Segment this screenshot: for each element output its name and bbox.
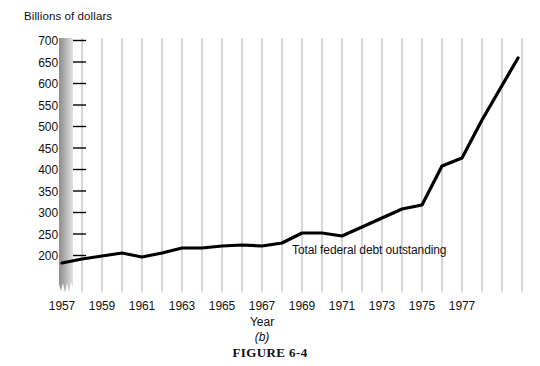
y-tick-label: 200: [24, 249, 58, 263]
figure-container: Billions of dollars: [0, 0, 540, 366]
x-axis-title: Year: [232, 315, 292, 329]
y-tick-label: 450: [24, 142, 58, 156]
y-tick-label: 600: [24, 77, 58, 91]
x-tick-label: 1973: [362, 299, 402, 313]
y-tick-label: 250: [24, 228, 58, 242]
y-axis-break-band: [59, 38, 73, 293]
y-tick-label: 650: [24, 56, 58, 70]
x-tick-label: 1971: [322, 299, 362, 313]
series-line-total-federal-debt: [62, 58, 518, 263]
x-tick-label: 1967: [242, 299, 282, 313]
y-axis-ticks: [73, 41, 86, 256]
y-tick-label: 400: [24, 163, 58, 177]
y-tick-label: 350: [24, 185, 58, 199]
x-tick-label: 1959: [82, 299, 122, 313]
x-tick-label: 1963: [162, 299, 202, 313]
x-tick-label: 1977: [442, 299, 482, 313]
x-tick-label: 1975: [402, 299, 442, 313]
y-tick-label: 500: [24, 120, 58, 134]
panel-letter: (b): [242, 330, 282, 344]
x-tick-label: 1965: [202, 299, 242, 313]
x-tick-label: 1957: [42, 299, 82, 313]
y-tick-label: 550: [24, 99, 58, 113]
series-annotation-label: Total federal debt outstanding: [292, 243, 446, 257]
figure-caption: FIGURE 6-4: [0, 345, 540, 361]
y-tick-label: 700: [24, 34, 58, 48]
y-tick-label: 300: [24, 206, 58, 220]
x-tick-label: 1969: [282, 299, 322, 313]
x-tick-label: 1961: [122, 299, 162, 313]
